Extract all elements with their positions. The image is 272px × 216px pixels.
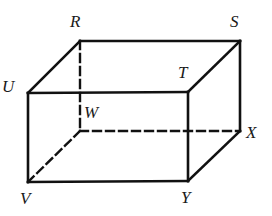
vertex-label-v: V — [20, 190, 30, 207]
edge-yx — [188, 131, 240, 181]
vertex-label-y: Y — [181, 189, 190, 206]
edge-ur — [28, 41, 80, 93]
prism-diagram — [0, 0, 272, 216]
prism-figure: RSUTWXVY — [0, 0, 272, 216]
edge-ut — [28, 92, 188, 93]
vertex-label-x: X — [246, 124, 256, 141]
vertex-label-r: R — [70, 13, 80, 30]
hidden-edge-wv — [28, 131, 80, 182]
vertex-label-u: U — [2, 78, 14, 95]
edge-ts — [188, 41, 240, 92]
vertex-label-t: T — [178, 64, 187, 81]
vertex-label-w: W — [84, 104, 98, 121]
edge-vy — [28, 181, 188, 182]
vertex-label-s: S — [230, 13, 239, 30]
solid-edges-group — [28, 41, 240, 182]
